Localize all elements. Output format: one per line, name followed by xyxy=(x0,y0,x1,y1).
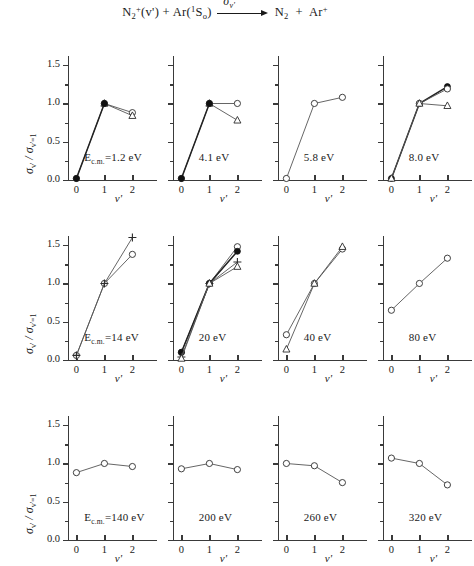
x-axis-title: v' xyxy=(325,552,332,564)
marker-circle-filled xyxy=(73,175,79,181)
arrow-head-icon xyxy=(261,10,268,16)
marker-triangle-open xyxy=(178,355,185,362)
series-line xyxy=(286,247,342,350)
x-tick-label: 2 xyxy=(119,544,145,555)
marker-triangle-open xyxy=(339,243,346,250)
x-tick-label: 2 xyxy=(329,184,355,195)
data-series-layer xyxy=(173,416,264,544)
y-tick-label: 1.5 xyxy=(34,58,60,69)
marker-circle-open xyxy=(311,463,317,469)
x-axis-title: v' xyxy=(115,552,122,564)
series-line xyxy=(76,254,132,355)
y-axis-title: σv' / σv'=1 xyxy=(22,133,38,174)
panel-200-ev: 012v'200 eV xyxy=(173,416,264,566)
x-axis-title: v' xyxy=(430,552,437,564)
marker-plus xyxy=(72,351,80,359)
x-tick-label: 0 xyxy=(273,544,299,555)
data-series-layer xyxy=(383,416,474,544)
x-tick-label: 0 xyxy=(273,184,299,195)
x-tick-label: 2 xyxy=(224,184,250,195)
x-tick-label: 1 xyxy=(301,364,327,375)
x-tick-label: 2 xyxy=(329,544,355,555)
series-line xyxy=(181,104,209,179)
x-tick-label: 0 xyxy=(168,544,194,555)
data-series-layer xyxy=(383,236,474,364)
series-line xyxy=(286,97,342,178)
data-series-layer xyxy=(173,236,264,364)
x-tick-label: 0 xyxy=(378,544,404,555)
data-series-layer xyxy=(278,236,369,364)
x-axis-title: v' xyxy=(220,552,227,564)
panel-14-ev: 0.00.51.01.5012v'σv' / σv'=1Ec.m.=14 eV xyxy=(68,236,159,386)
marker-circle-open xyxy=(178,466,184,472)
x-tick-label: 1 xyxy=(196,364,222,375)
x-axis-title: v' xyxy=(115,192,122,204)
y-tick-label: 1.5 xyxy=(34,418,60,429)
x-tick-label: 0 xyxy=(168,184,194,195)
x-axis-title: v' xyxy=(430,372,437,384)
x-tick-label: 0 xyxy=(63,544,89,555)
y-tick-label: 0.0 xyxy=(34,353,60,364)
marker-circle-open xyxy=(444,482,450,488)
series-line xyxy=(391,104,447,179)
marker-circle-filled xyxy=(101,100,107,106)
x-tick-label: 1 xyxy=(301,184,327,195)
marker-circle-open xyxy=(283,332,289,338)
marker-circle-open xyxy=(339,479,345,485)
marker-plus xyxy=(128,234,136,242)
x-axis-title: v' xyxy=(115,372,122,384)
y-tick-label: 0.0 xyxy=(34,173,60,184)
y-axis-title: σv' / σv'=1 xyxy=(22,493,38,534)
marker-circle-open xyxy=(444,86,450,92)
x-axis-title: v' xyxy=(325,372,332,384)
y-axis-title: σv' / σv'=1 xyxy=(22,313,38,354)
x-tick-label: 2 xyxy=(224,544,250,555)
plus-sign-1: + xyxy=(163,5,170,19)
panel-5-8-ev: 012v'5.8 eV xyxy=(278,56,369,206)
y-tick-label: 1.0 xyxy=(34,456,60,467)
x-tick-label: 1 xyxy=(406,544,432,555)
marker-circle-open xyxy=(234,100,240,106)
panel-20-ev: 012v'20 eV xyxy=(173,236,264,386)
product-ar-plus: Ar+ xyxy=(309,5,328,19)
x-axis-title: v' xyxy=(220,192,227,204)
panel-140-ev: 0.00.51.01.5012v'σv' / σv'=1Ec.m.=140 eV xyxy=(68,416,159,566)
data-series-layer xyxy=(278,416,369,544)
series-line xyxy=(104,104,132,116)
x-tick-label: 0 xyxy=(63,364,89,375)
data-series-layer xyxy=(68,416,159,544)
product-n2: N2 xyxy=(275,5,289,19)
reactant-argon: Ar(1So) xyxy=(173,5,212,19)
series-line xyxy=(286,249,342,335)
x-axis-title: v' xyxy=(220,372,227,384)
panel-8-0-ev: 012v'8.0 eV xyxy=(383,56,474,206)
panel-4-1-ev: 012v'4.1 eV xyxy=(173,56,264,206)
x-axis-title: v' xyxy=(430,192,437,204)
reaction-equation: N2+(v') + Ar(1So) σv' N2 + Ar+ xyxy=(0,4,450,21)
x-tick-label: 1 xyxy=(91,364,117,375)
x-tick-label: 2 xyxy=(434,544,460,555)
y-tick-label: 0.0 xyxy=(34,533,60,544)
x-tick-label: 0 xyxy=(378,184,404,195)
marker-circle-open xyxy=(388,455,394,461)
data-series-layer xyxy=(173,56,264,184)
data-series-layer xyxy=(68,56,159,184)
panel-40-ev: 012v'40 eV xyxy=(278,236,369,386)
x-tick-label: 0 xyxy=(378,364,404,375)
x-tick-label: 1 xyxy=(91,544,117,555)
marker-circle-open xyxy=(339,94,345,100)
x-tick-label: 1 xyxy=(406,364,432,375)
x-tick-label: 2 xyxy=(119,364,145,375)
data-series-layer xyxy=(383,56,474,184)
x-tick-label: 2 xyxy=(329,364,355,375)
x-tick-label: 2 xyxy=(224,364,250,375)
marker-circle-open xyxy=(129,251,135,257)
marker-circle-open xyxy=(129,463,135,469)
marker-circle-open xyxy=(283,175,289,181)
marker-circle-open xyxy=(311,100,317,106)
marker-circle-filled xyxy=(178,175,184,181)
x-tick-label: 0 xyxy=(273,364,299,375)
data-series-layer xyxy=(68,236,159,364)
cross-section-label: σv' xyxy=(223,0,235,10)
arrow-shaft xyxy=(217,13,263,14)
